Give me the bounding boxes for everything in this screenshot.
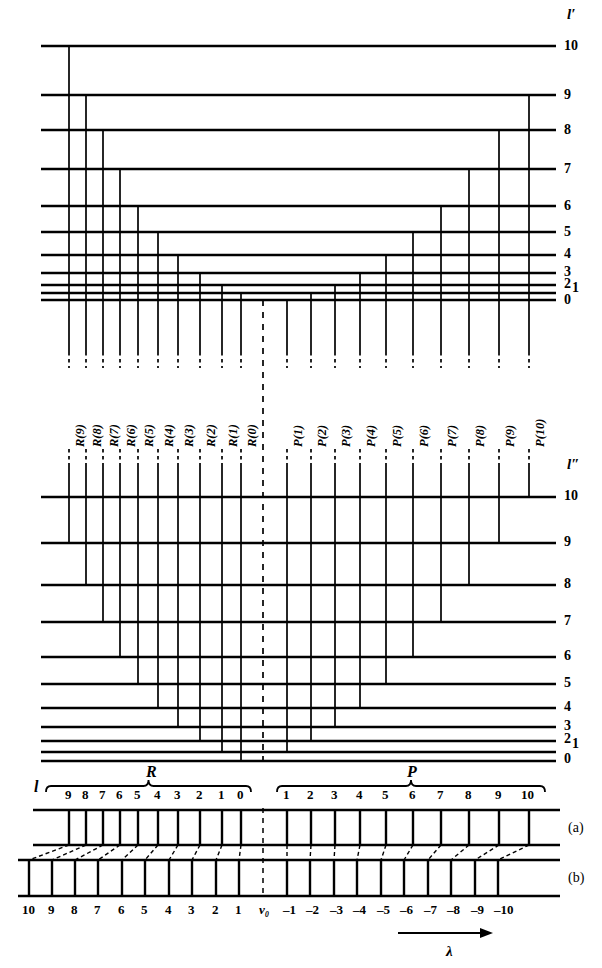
spectrum-a-tick-label-4: 4 — [356, 788, 363, 801]
upper-level-number-5: 5 — [564, 225, 571, 239]
spectrum-bottom-number-20: –10 — [494, 903, 514, 916]
lower-level-number-1: 1 — [572, 737, 579, 751]
spectrum-bottom-number-15: –5 — [377, 903, 390, 916]
spectrum-a-tick-label-7: 7 — [437, 788, 444, 801]
spectrum-a-tick-label-6: 6 — [409, 788, 416, 801]
energy-level-diagram-svg — [0, 0, 602, 968]
spectrum-connector-P4 — [357, 845, 360, 860]
spectrum-bottom-number-13: –3 — [330, 903, 343, 916]
upper-level-number-1: 1 — [572, 281, 579, 295]
upper-level-number-10: 10 — [564, 39, 578, 53]
spectrum-rows — [18, 810, 560, 896]
spectrum-bottom-number-9: 1 — [235, 903, 242, 916]
transition-label-P(1): P(1) — [292, 425, 305, 447]
transition-label-R(0): R(0) — [246, 424, 259, 447]
spectrum-a-tick-label-6: 6 — [116, 788, 123, 801]
spectrum-connector-R5 — [122, 845, 138, 860]
spectrum-bottom-number-10: ν₀ — [259, 903, 269, 916]
transition-label-P(5): P(5) — [391, 425, 404, 447]
lower-level-number-7: 7 — [564, 614, 571, 628]
transition-label-R(7): R(7) — [108, 424, 121, 447]
transition-label-P(3): P(3) — [340, 425, 353, 447]
spectrum-connector-P5 — [381, 845, 386, 860]
spectrum-bottom-number-18: –8 — [447, 903, 460, 916]
lambda-arrow-head — [480, 928, 493, 938]
spectrum-a-tick-label-8: 8 — [82, 788, 89, 801]
spectrum-bottom-number-12: –2 — [306, 903, 319, 916]
spectrum-a-tick-label-3: 3 — [174, 788, 181, 801]
spectrum-a-tick-label-9: 9 — [495, 788, 502, 801]
spectrum-bottom-number-8: 2 — [212, 903, 219, 916]
spectrum-a-tick-label-1: 1 — [218, 788, 225, 801]
spectrum-a-tick-label-7: 7 — [99, 788, 106, 801]
transition-label-P(10): P(10) — [534, 419, 547, 447]
spectrum-connector-R6 — [98, 845, 120, 860]
spectrum-bottom-number-1: 9 — [48, 903, 55, 916]
transition-label-R(2): R(2) — [205, 424, 218, 447]
spectrum-bottom-number-4: 6 — [118, 903, 125, 916]
spectrum-bottom-number-6: 4 — [165, 903, 172, 916]
spectrum-a-tick-label-5: 5 — [382, 788, 389, 801]
branch-r-label: R — [146, 764, 157, 780]
spectrum-connector-R2 — [192, 845, 200, 860]
lower-level-number-4: 4 — [564, 700, 571, 714]
spectrum-a-tick-label-10: 10 — [521, 788, 534, 801]
spectrum-connector-P6 — [404, 845, 413, 860]
transition-label-R(9): R(9) — [74, 424, 87, 447]
spectrum-bottom-number-0: 10 — [22, 903, 35, 916]
spectrum-connector-R3 — [169, 845, 178, 860]
bottom-axis-label: l — [34, 779, 38, 795]
transition-label-P(9): P(9) — [504, 425, 517, 447]
spectrum-connector-R0 — [239, 845, 241, 860]
transition-label-P(7): P(7) — [446, 425, 459, 447]
transition-label-P(6): P(6) — [418, 425, 431, 447]
wavelength-arrow — [398, 928, 493, 938]
transition-label-R(1): R(1) — [227, 424, 240, 447]
transition-label-R(6): R(6) — [125, 424, 138, 447]
spectrum-connector-R4 — [145, 845, 158, 860]
spectrum-bottom-number-14: –4 — [353, 903, 366, 916]
upper-level-number-4: 4 — [564, 247, 571, 261]
lower-energy-levels — [41, 497, 556, 761]
lower-level-number-6: 6 — [564, 649, 571, 663]
spectrum-connector-P10 — [498, 845, 529, 860]
spectrum-row-b-label: (b) — [568, 871, 584, 885]
upper-level-number-8: 8 — [564, 123, 571, 137]
spectrum-connector-R9 — [29, 845, 69, 860]
transition-label-P(8): P(8) — [474, 425, 487, 447]
spectrum-connector-P7 — [428, 845, 441, 860]
spectrum-connector-P3 — [334, 845, 335, 860]
spectrum-bottom-number-7: 3 — [188, 903, 195, 916]
upper-level-number-0: 0 — [564, 293, 571, 307]
wavelength-label: λ — [446, 944, 453, 959]
branch-p-label: P — [407, 764, 417, 780]
spectrum-connector-P2 — [310, 845, 311, 860]
upper-level-number-7: 7 — [564, 162, 571, 176]
transition-label-P(2): P(2) — [316, 425, 329, 447]
spectrum-a-tick-label-1: 1 — [283, 788, 290, 801]
spectrum-bottom-number-17: –7 — [424, 903, 437, 916]
upper-energy-levels — [41, 46, 556, 300]
figure-canvas: l′ l″ l R P (a) (b) λ 109876543210109876… — [0, 0, 602, 968]
upper-level-number-2: 2 — [564, 277, 571, 291]
upper-axis-label: l′ — [567, 7, 575, 22]
spectrum-bottom-number-11: –1 — [283, 903, 296, 916]
spectrum-row-a-label: (a) — [568, 821, 584, 835]
spectrum-connector-P8 — [451, 845, 469, 860]
spectrum-connector-R8 — [52, 845, 86, 860]
spectrum-a-tick-label-4: 4 — [154, 788, 161, 801]
spectrum-bottom-number-2: 8 — [71, 903, 78, 916]
upper-level-number-9: 9 — [564, 88, 571, 102]
lower-level-number-0: 0 — [564, 752, 571, 766]
spectrum-bottom-number-5: 5 — [141, 903, 148, 916]
transition-label-R(8): R(8) — [91, 424, 104, 447]
spectrum-a-tick-label-2: 2 — [307, 788, 314, 801]
spectrum-a-tick-label-3: 3 — [331, 788, 338, 801]
transition-label-P(4): P(4) — [365, 425, 378, 447]
spectrum-bottom-number-16: –6 — [400, 903, 413, 916]
lower-level-number-8: 8 — [564, 577, 571, 591]
lower-level-number-9: 9 — [564, 535, 571, 549]
transition-lines — [69, 46, 529, 761]
spectrum-connector-P9 — [475, 845, 499, 860]
transition-label-R(5): R(5) — [143, 424, 156, 447]
